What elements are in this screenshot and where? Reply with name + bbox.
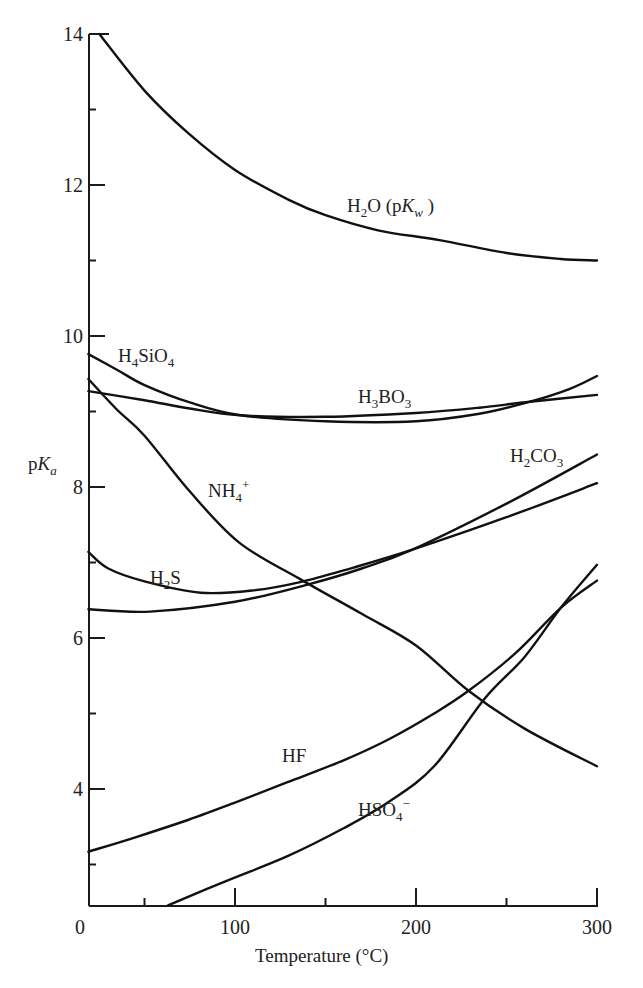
y-tick-label: 14 [63,23,83,45]
label-nh4: NH4+ [208,477,249,505]
label-h3bo3: H3BO3 [358,386,411,411]
y-tick-label: 4 [73,778,83,800]
x-axis-title: Temperature (°C) [255,945,388,967]
y-tick-label: 12 [63,174,83,196]
x-tick-label: 200 [401,916,431,938]
x-tick-label: 0 [75,916,85,938]
y-tick-label: 10 [63,325,83,347]
axes: 4681012140100200300 [63,23,612,938]
label-hf: HF [282,745,306,766]
y-tick-label: 6 [73,627,83,649]
x-tick-label: 300 [582,916,612,938]
x-tick-label: 100 [220,916,250,938]
label-h2o-pkw: H2O (pKw ) [347,195,434,220]
curve-h2o-pkw [99,34,597,261]
label-hso4: HSO4− [358,796,410,824]
curve-nh4 [88,379,597,766]
curves [88,34,597,905]
curve-hso4 [168,565,597,906]
curve-hf [88,581,597,852]
y-axis-title: pKa [28,453,57,478]
y-tick-label: 8 [73,476,83,498]
label-h2co3: H2CO3 [510,445,563,470]
label-h4sio4: H4SiO4 [118,345,175,370]
pka-temperature-chart: 4681012140100200300 H2O (pKw )H4SiO4H3BO… [0,0,643,988]
